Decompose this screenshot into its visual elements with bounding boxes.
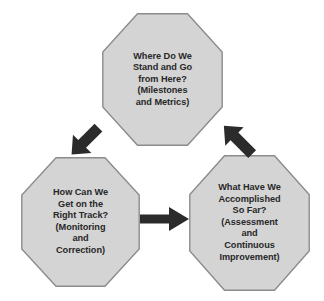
octagon-top-label: Where Do We Stand and Go from Here? (Mil… (102, 51, 223, 109)
arrow-up-left-glyph (216, 116, 260, 164)
diagram-canvas: Where Do We Stand and Go from Here? (Mil… (0, 0, 324, 301)
arrow-right-glyph (140, 206, 190, 232)
octagon-left-label: How Can We Get on the Right Track? (Moni… (21, 187, 140, 257)
octagon-where-do-we-stand[interactable]: Where Do We Stand and Go from Here? (Mil… (102, 13, 223, 146)
octagon-how-can-we-get-on-track[interactable]: How Can We Get on the Right Track? (Moni… (21, 157, 140, 287)
arrow-up-left (216, 116, 260, 164)
octagon-what-have-we-accomplished[interactable]: What Have We Accomplished So Far? (Asses… (189, 155, 310, 291)
arrow-right (140, 206, 190, 232)
octagon-right-label: What Have We Accomplished So Far? (Asses… (189, 182, 310, 263)
arrow-down-left-glyph (64, 118, 106, 164)
arrow-down-left (64, 118, 106, 164)
